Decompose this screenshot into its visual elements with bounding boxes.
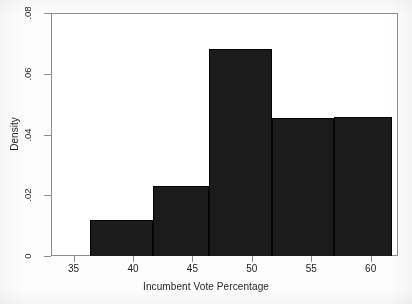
y-axis-tick-mark xyxy=(44,195,51,196)
y-axis-tick-mark xyxy=(44,74,51,75)
x-axis-tick-label: 55 xyxy=(291,263,331,274)
x-axis-tick-label: 50 xyxy=(232,263,272,274)
x-axis-tick-mark xyxy=(192,256,193,262)
histogram-bar xyxy=(334,117,392,256)
y-axis-tick-label-text: .06 xyxy=(22,67,33,80)
x-axis-title: Incumbent Vote Percentage xyxy=(0,281,412,292)
histogram-bar xyxy=(90,220,153,256)
y-axis-tick-label: .06 xyxy=(14,68,40,80)
x-axis-tick-label: 40 xyxy=(113,263,153,274)
y-axis-title-text: Density xyxy=(9,117,20,150)
x-axis-tick-mark xyxy=(133,256,134,262)
y-axis-tick-mark xyxy=(44,256,51,257)
y-axis-tick-label-text: .04 xyxy=(22,128,33,141)
x-axis-tick-mark xyxy=(74,256,75,262)
x-axis-tick-label: 60 xyxy=(351,263,391,274)
y-axis-tick-label: 0 xyxy=(14,250,40,262)
histogram-bar xyxy=(209,49,272,256)
x-axis-tick-label: 45 xyxy=(172,263,212,274)
x-axis-tick-label: 35 xyxy=(54,263,94,274)
y-axis-tick-label-text: 0 xyxy=(22,253,33,258)
y-axis-tick-label: .02 xyxy=(14,189,40,201)
y-axis-tick-label-text: .02 xyxy=(22,189,33,202)
histogram-figure: 0.02.04.06.08 354045505560 Incumbent Vot… xyxy=(0,0,412,304)
y-axis-tick-mark xyxy=(44,13,51,14)
histogram-bar xyxy=(272,118,334,256)
y-axis-title: Density xyxy=(6,104,22,164)
bars-layer xyxy=(51,13,398,256)
x-axis-tick-mark xyxy=(311,256,312,262)
y-axis-tick-label-text: .08 xyxy=(22,6,33,19)
histogram-bar xyxy=(153,186,209,256)
y-axis-tick-label: .08 xyxy=(14,7,40,19)
x-axis-tick-mark xyxy=(252,256,253,262)
y-axis-tick-mark xyxy=(44,135,51,136)
x-axis-tick-mark xyxy=(371,256,372,262)
